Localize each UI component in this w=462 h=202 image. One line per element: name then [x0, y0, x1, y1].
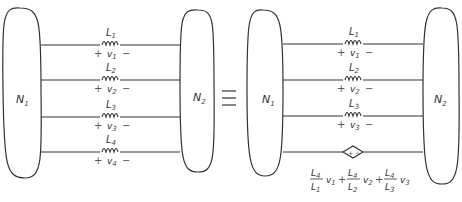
- svg-text:−: −: [365, 119, 373, 130]
- circuit-diagram: N1 N2 L1 + v1 − L2 + v2 − L3 +: [0, 0, 462, 202]
- svg-text:L1: L1: [311, 182, 320, 194]
- svg-text:v3: v3: [107, 121, 117, 133]
- svg-text:L1: L1: [106, 27, 116, 40]
- branch-2-left: L2 + v2 −: [41, 62, 180, 96]
- branch-1-right: L1 + v1 −: [283, 26, 423, 60]
- branch-4-left: L4 + v4 −: [41, 134, 180, 168]
- svg-text:−: −: [122, 48, 130, 59]
- svg-text:−: −: [365, 83, 373, 94]
- dependent-source-expression: L4 L1 v1 + L4 L2 v2 + L4 L3 v3: [310, 168, 410, 194]
- svg-text:L4: L4: [311, 168, 320, 180]
- svg-text:+: +: [94, 155, 102, 166]
- equivalence-symbol: [222, 91, 236, 105]
- svg-text:v3: v3: [350, 120, 360, 132]
- svg-text:L3: L3: [106, 99, 116, 112]
- svg-text:+: +: [94, 48, 102, 59]
- branch-2-right: L2 + v2 −: [283, 62, 423, 96]
- svg-text:L3: L3: [385, 182, 394, 194]
- svg-text:L2: L2: [348, 182, 358, 194]
- svg-text:L4: L4: [106, 134, 116, 147]
- svg-text:+: +: [338, 174, 346, 185]
- svg-text:L3: L3: [349, 98, 359, 111]
- svg-text:+: +: [337, 119, 345, 130]
- svg-text:v4: v4: [107, 156, 117, 168]
- n1-label-right: N1: [262, 93, 275, 108]
- svg-text:v2: v2: [363, 175, 373, 187]
- n1-label-left: N1: [16, 93, 29, 108]
- svg-text:+: +: [337, 83, 345, 94]
- svg-text:v1: v1: [350, 48, 360, 60]
- svg-text:v3: v3: [400, 175, 410, 187]
- n2-label-right: N2: [434, 93, 447, 108]
- branch-4-right-dependent-source: + −: [283, 146, 423, 158]
- svg-text:−: −: [122, 120, 130, 131]
- branch-3-right: L3 + v3 −: [283, 98, 423, 132]
- left-circuit: N1 N2 L1 + v1 − L2 + v2 − L3 +: [3, 8, 215, 178]
- branch-1-left: L1 + v1 −: [41, 27, 180, 61]
- svg-text:v2: v2: [107, 84, 117, 96]
- svg-text:+: +: [94, 120, 102, 131]
- svg-text:−: −: [122, 83, 130, 94]
- svg-text:v2: v2: [350, 84, 360, 96]
- n2-label-left: N2: [193, 91, 206, 106]
- svg-text:+: +: [337, 47, 345, 58]
- svg-text:−: −: [365, 47, 373, 58]
- svg-text:+ −: + −: [348, 149, 360, 156]
- branch-3-left: L3 + v3 −: [41, 99, 180, 133]
- svg-text:L1: L1: [349, 26, 359, 39]
- svg-text:L2: L2: [106, 62, 117, 75]
- svg-text:−: −: [122, 155, 130, 166]
- svg-text:L4: L4: [348, 168, 357, 180]
- svg-text:+: +: [375, 174, 383, 185]
- svg-text:+: +: [94, 83, 102, 94]
- svg-text:L2: L2: [349, 62, 360, 75]
- svg-text:v1: v1: [107, 49, 117, 61]
- svg-text:L4: L4: [385, 168, 394, 180]
- svg-text:v1: v1: [326, 175, 336, 187]
- right-circuit: N1 N2 L1 + v1 − L2 + v2 − L3 + v3: [247, 8, 459, 194]
